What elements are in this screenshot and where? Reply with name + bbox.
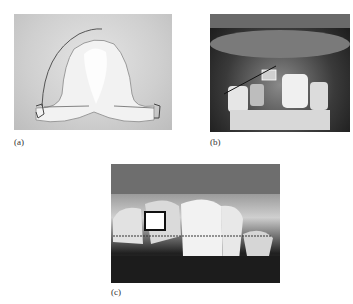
figure-panel-c-image — [111, 164, 280, 283]
intraoral-photo-b — [210, 14, 350, 132]
panel-c-label: (c) — [111, 287, 121, 297]
intraoral-photo-c — [111, 164, 280, 283]
figure-panel-b-image — [210, 14, 350, 132]
panel-b-label: (b) — [210, 137, 221, 147]
figure-panel-a-image — [14, 14, 172, 130]
panel-a-label: (a) — [14, 137, 24, 147]
appliance-illustration — [14, 14, 172, 130]
